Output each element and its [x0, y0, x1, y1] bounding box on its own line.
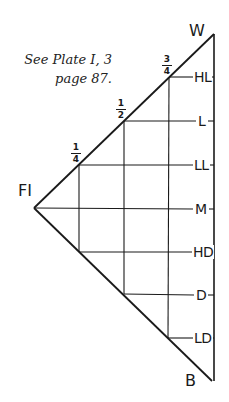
fraction-numerator: 1: [118, 98, 124, 108]
plate-reference-note: See Plate I, 3 page 87.: [20, 50, 112, 88]
level-label-ld: LD: [193, 331, 213, 345]
fraction-denominator: 4: [73, 154, 79, 164]
level-label-hd: HD: [192, 245, 214, 259]
level-label-hl: HL: [193, 70, 212, 84]
apex-label-b: B: [185, 373, 196, 389]
apex-label-fi: FI: [18, 183, 32, 199]
fraction-numerator: 3: [164, 54, 170, 64]
fraction-one-half: 1 2: [116, 99, 126, 120]
fraction-denominator: 2: [118, 110, 124, 120]
level-label-d: D: [195, 288, 207, 302]
fraction-three-quarters: 3 4: [162, 55, 172, 76]
fraction-numerator: 1: [73, 142, 79, 152]
level-line-d: [124, 294, 194, 295]
fraction-denominator: 4: [164, 66, 170, 76]
note-line-2: page 87.: [20, 69, 112, 88]
note-line-1: See Plate I, 3: [20, 50, 112, 69]
level-label-ll: LL: [193, 158, 210, 172]
fraction-one-quarter: 1 4: [71, 143, 81, 164]
level-line-m: [34, 208, 193, 209]
level-label-l: L: [197, 114, 206, 128]
three-quarter-line: [168, 77, 169, 338]
apex-label-w: W: [189, 23, 205, 39]
level-label-m: M: [194, 202, 208, 216]
